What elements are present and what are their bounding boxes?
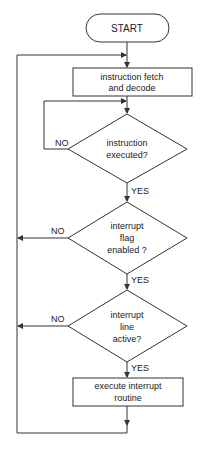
- fetch-label-1: instruction fetch: [100, 72, 163, 82]
- execute-label-1: execute interrupt: [94, 381, 162, 391]
- fetch-label-2: and decode: [108, 83, 155, 93]
- line-yes-label: YES: [131, 363, 149, 373]
- flag-label-2: flag: [120, 233, 135, 243]
- line-label-2: line: [120, 322, 134, 332]
- flowchart: START instruction fetch and decode instr…: [0, 0, 201, 453]
- executed-yes-label: YES: [131, 186, 149, 196]
- line-no-label: NO: [51, 314, 65, 324]
- flag-label-3: enabled ?: [107, 245, 147, 255]
- decision-instruction-executed: [68, 114, 187, 183]
- line-label-1: interrupt: [110, 310, 144, 320]
- flag-label-1: interrupt: [110, 221, 144, 231]
- executed-label-1: instruction: [106, 138, 147, 148]
- line-label-3: active?: [113, 334, 142, 344]
- start-label: START: [111, 23, 143, 34]
- executed-no-label: NO: [55, 138, 69, 148]
- flag-no-label: NO: [51, 226, 65, 236]
- execute-label-2: routine: [114, 393, 142, 403]
- executed-label-2: executed?: [106, 150, 148, 160]
- flag-yes-label: YES: [131, 275, 149, 285]
